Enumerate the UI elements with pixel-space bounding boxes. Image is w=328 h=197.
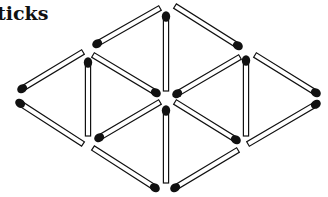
matchstick: [162, 11, 170, 91]
match-head-icon: [162, 11, 170, 21]
matchstick: [93, 98, 163, 144]
matchstick: [91, 144, 162, 194]
matchstick: [84, 57, 92, 136]
matchstick: [91, 51, 163, 99]
match-head-icon: [162, 105, 170, 115]
matchstick: [171, 53, 243, 100]
matchstick: [169, 146, 241, 194]
matchstick: [16, 48, 86, 95]
matchstick: [246, 98, 323, 148]
matchstick: [173, 98, 243, 146]
match-head-icon: [242, 55, 250, 65]
matchstick-diagram: [0, 0, 328, 197]
matchstick: [91, 4, 163, 50]
match-head-icon: [84, 57, 92, 67]
matchstick: [173, 2, 245, 52]
matchstick: [253, 51, 323, 99]
matchstick: [162, 105, 170, 183]
matchstick: [13, 97, 85, 148]
matchstick: [242, 55, 250, 136]
